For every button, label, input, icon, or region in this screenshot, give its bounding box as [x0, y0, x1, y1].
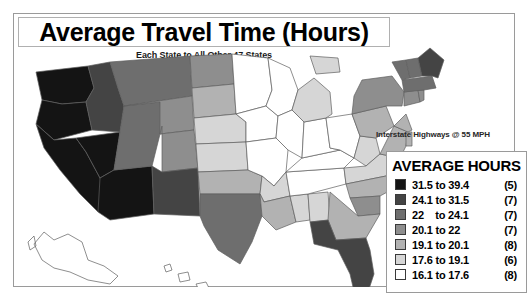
legend-range-label: 19.1 to 20.1 — [412, 239, 469, 251]
state-ME[interactable] — [418, 48, 444, 78]
legend-range-label: 20.1 to 22 — [412, 224, 460, 236]
legend-swatch — [395, 179, 406, 190]
state-KS[interactable] — [196, 142, 248, 172]
legend-swatch — [395, 194, 406, 205]
legend-swatch — [395, 224, 406, 235]
legend-count: (7) — [504, 224, 517, 236]
state-MI[interactable] — [292, 56, 340, 122]
state-AK-inset[interactable] — [28, 232, 118, 284]
legend-count: (7) — [504, 209, 517, 221]
legend-row[interactable]: 17.6 to 19.1(6) — [387, 252, 526, 267]
state-TX[interactable] — [200, 194, 262, 264]
legend-range-label: 22 to 24.1 — [412, 209, 469, 221]
legend-count: (6) — [504, 254, 517, 266]
highways-note: Interstate Highways @ 55 MPH — [376, 130, 490, 139]
state-SD[interactable] — [192, 84, 236, 118]
legend-row[interactable]: 20.1 to 22(7) — [387, 222, 526, 237]
state-NM[interactable] — [152, 166, 200, 216]
legend-count: (8) — [504, 239, 517, 251]
state-ND[interactable] — [190, 54, 234, 88]
title-banner: Average Travel Time (Hours) — [18, 17, 390, 47]
state-NE[interactable] — [194, 114, 246, 144]
legend-range-label: 17.6 to 19.1 — [412, 254, 469, 266]
map-figure-frame: Average Travel Time (Hours) Each State t… — [13, 13, 515, 287]
state-AL[interactable] — [308, 192, 330, 222]
state-OK[interactable] — [198, 170, 262, 194]
legend-count: (5) — [504, 179, 517, 191]
legend-rows: 31.5 to 39.4(5)24.1 to 31.5(7)22 to 24.1… — [387, 177, 526, 282]
legend-swatch — [395, 239, 406, 250]
legend-count: (7) — [504, 194, 517, 206]
legend-row[interactable]: 31.5 to 39.4(5) — [387, 177, 526, 192]
state-HI-inset[interactable] — [164, 264, 210, 287]
legend-swatch — [395, 269, 406, 280]
legend-count: (8) — [504, 269, 517, 281]
legend-range-label: 31.5 to 39.4 — [412, 179, 469, 191]
legend-row[interactable]: 24.1 to 31.5(7) — [387, 192, 526, 207]
state-TN[interactable] — [286, 168, 346, 196]
state-WA[interactable] — [36, 66, 94, 104]
legend-range-label: 24.1 to 31.5 — [412, 194, 469, 206]
state-AZ[interactable] — [98, 166, 154, 220]
map-legend: AVERAGE HOURS 31.5 to 39.4(5)24.1 to 31.… — [386, 151, 527, 293]
legend-row[interactable]: 22 to 24.1(7) — [387, 207, 526, 222]
state-CT[interactable] — [404, 90, 420, 106]
page-title: Average Travel Time (Hours) — [39, 20, 369, 45]
legend-swatch — [395, 254, 406, 265]
legend-row[interactable]: 19.1 to 20.1(8) — [387, 237, 526, 252]
legend-title: AVERAGE HOURS — [387, 157, 526, 174]
legend-swatch — [395, 209, 406, 220]
state-MN[interactable] — [232, 54, 272, 114]
legend-range-label: 16.1 to 17.6 — [412, 269, 469, 281]
legend-row[interactable]: 16.1 to 17.6(8) — [387, 267, 526, 282]
